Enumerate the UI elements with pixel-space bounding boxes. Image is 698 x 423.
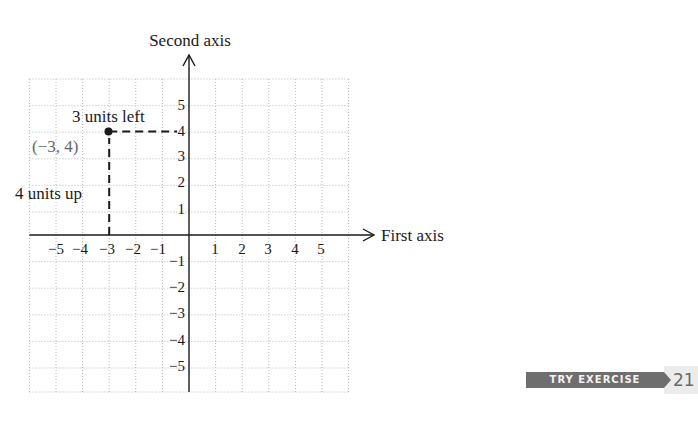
- y-axis-label: Second axis: [149, 31, 231, 50]
- svg-text:−4: −4: [169, 332, 185, 348]
- annotation-4-units-up: 4 units up: [15, 184, 82, 203]
- annotation-3-units-left: 3 units left: [72, 107, 145, 126]
- svg-text:−4: −4: [72, 241, 88, 257]
- svg-text:4: 4: [178, 123, 186, 139]
- svg-text:−3: −3: [99, 241, 115, 257]
- svg-text:4: 4: [291, 241, 299, 257]
- svg-text:−2: −2: [169, 279, 185, 295]
- exercise-number[interactable]: 21: [673, 370, 695, 390]
- dashed-guides: [109, 132, 177, 236]
- x-tick-labels: −5 −4 −3 −2 −1 1 2 3 4 5: [48, 241, 325, 257]
- svg-text:3: 3: [264, 241, 272, 257]
- svg-text:1: 1: [211, 241, 219, 257]
- badge-arrow-icon: [664, 372, 671, 388]
- svg-text:−1: −1: [150, 241, 166, 257]
- svg-text:−1: −1: [169, 253, 185, 269]
- svg-text:−5: −5: [169, 358, 185, 374]
- point-marker: [105, 128, 113, 136]
- svg-text:1: 1: [178, 201, 186, 217]
- svg-text:−5: −5: [48, 241, 64, 257]
- try-exercise-badge[interactable]: TRY EXERCISE: [526, 372, 664, 388]
- svg-text:3: 3: [178, 148, 186, 164]
- svg-text:5: 5: [178, 97, 186, 113]
- point-label: (−3, 4): [32, 137, 78, 156]
- svg-text:−2: −2: [125, 241, 141, 257]
- svg-text:2: 2: [238, 241, 246, 257]
- coordinate-plane: Second axis First axis 3 units left 4 un…: [0, 0, 698, 423]
- svg-text:−3: −3: [169, 305, 185, 321]
- x-axis-label: First axis: [381, 226, 444, 245]
- svg-text:2: 2: [178, 174, 186, 190]
- svg-text:5: 5: [317, 241, 325, 257]
